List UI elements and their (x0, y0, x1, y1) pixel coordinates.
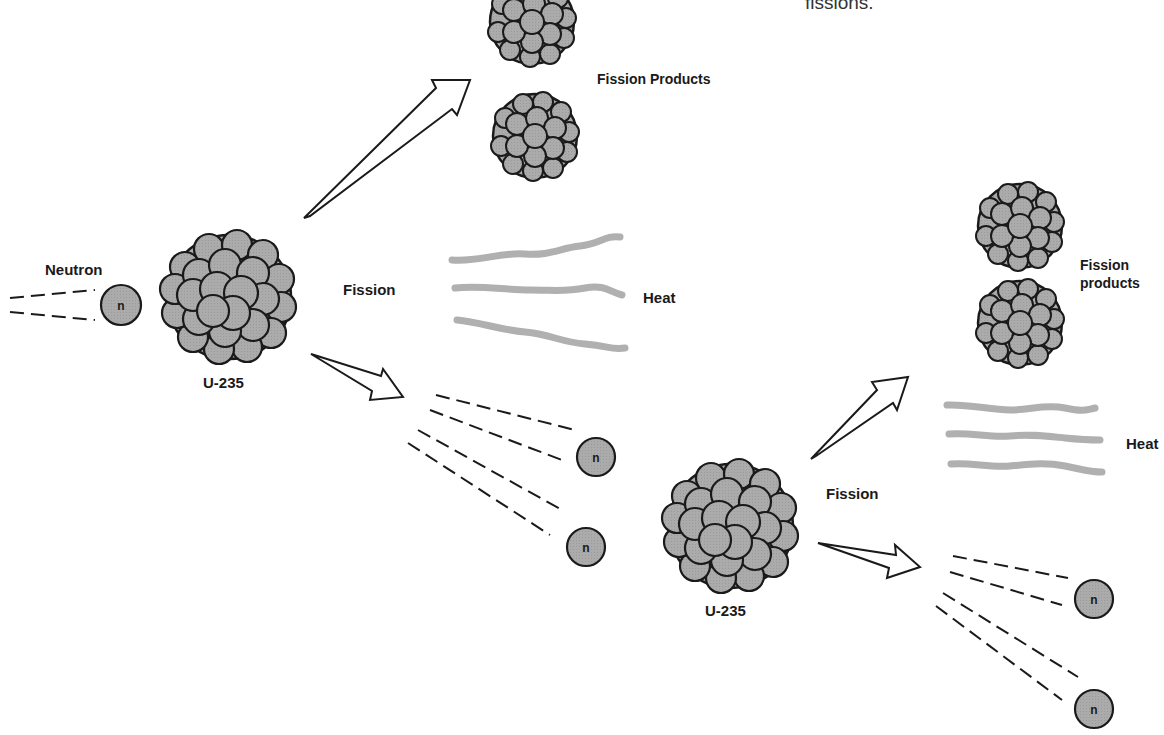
caption-text: fissions. (805, 0, 874, 14)
fission-product-2a (976, 182, 1064, 271)
arrow-to-fission-products-2 (811, 377, 908, 459)
released-neutron-2b: n (1075, 690, 1113, 728)
fission-product-2b (976, 279, 1064, 368)
svg-text:n: n (582, 541, 589, 555)
released-neutron-trails-1 (408, 395, 575, 535)
u235-label-2: U-235 (705, 602, 746, 620)
heat-waves-1 (452, 237, 625, 349)
u235-label-1: U-235 (203, 374, 244, 392)
heat-label-1: Heat (643, 289, 676, 307)
heat-label-2: Heat (1126, 435, 1159, 453)
svg-text:n: n (117, 299, 124, 313)
released-neutron-trails-2 (936, 556, 1078, 700)
heat-waves-2 (947, 405, 1102, 472)
u235-nucleus-1 (160, 230, 296, 364)
fission-products-label-1: Fission Products (597, 70, 711, 88)
released-neutron-1a: n (577, 438, 615, 476)
arrow-to-fission-products (304, 80, 470, 218)
arrow-to-neutrons-1 (311, 354, 403, 400)
fission-label-2: Fission (826, 485, 879, 503)
released-neutron-2a: n (1075, 580, 1113, 618)
neutron-label: Neutron (45, 261, 103, 279)
fission-product-1a (488, 0, 576, 67)
svg-text:n: n (1090, 703, 1097, 717)
neutron-particle: n (101, 285, 141, 325)
incoming-neutron-trail (10, 290, 95, 320)
arrow-to-neutrons-2 (818, 543, 920, 578)
fission-products-label-2-line2: products (1080, 274, 1140, 292)
released-neutron-1b: n (567, 528, 605, 566)
fission-label-1: Fission (343, 281, 396, 299)
fission-products-label-2-line1: Fission (1080, 256, 1129, 274)
fission-chain-reaction-diagram: n n n (0, 0, 1164, 735)
svg-text:n: n (1090, 593, 1097, 607)
svg-text:n: n (592, 451, 599, 465)
fission-product-1b (491, 92, 579, 181)
u235-nucleus-2 (662, 459, 798, 593)
